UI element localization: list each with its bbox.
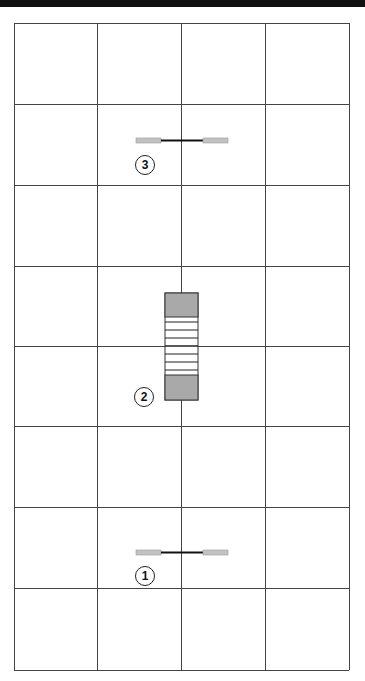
component-1-label: 1 [135, 566, 155, 586]
component-3-label: 3 [135, 155, 155, 175]
component-2-block [165, 293, 198, 400]
grid-diagram [0, 0, 365, 681]
component-2-label: 2 [134, 387, 154, 407]
